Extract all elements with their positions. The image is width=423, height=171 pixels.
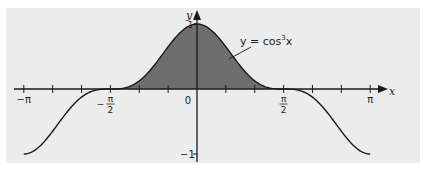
x-axis-label: x — [389, 85, 396, 98]
x-tick-label: −π — [17, 94, 31, 105]
svg-text:2: 2 — [108, 105, 114, 115]
curve-label: y = cos3x — [240, 34, 293, 48]
svg-text:−: − — [97, 99, 105, 109]
x-tick-label: π — [367, 94, 373, 105]
svg-text:2: 2 — [281, 105, 287, 115]
x-tick-label: 0 — [185, 95, 191, 106]
cos-cubed-graph: x y 1 −1 y = cos3x −ππ2−0π2π — [0, 0, 423, 171]
svg-text:π: π — [108, 94, 114, 104]
y-tick-label-neg1: −1 — [180, 149, 195, 160]
svg-text:π: π — [281, 94, 287, 104]
